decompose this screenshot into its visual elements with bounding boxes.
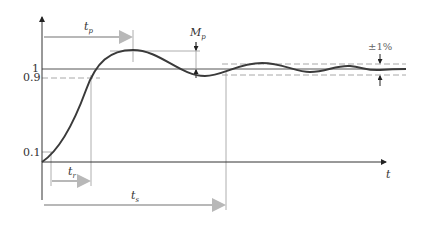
y-tick-0.1: 0.1 xyxy=(23,146,41,159)
step-response-curve xyxy=(42,50,406,162)
overshoot-label: Mp xyxy=(189,26,206,41)
x-axis-label: t xyxy=(386,168,391,181)
peak-time-label: tp xyxy=(84,20,93,35)
tolerance-label: ±1% xyxy=(368,41,392,52)
rise-time-label: tr xyxy=(68,165,76,180)
step-response-diagram: 1 0.9 0.1 tp Mp tr ts ±1% t xyxy=(0,0,424,227)
y-tick-0.9: 0.9 xyxy=(23,71,41,84)
settling-time-label: ts xyxy=(131,189,139,204)
